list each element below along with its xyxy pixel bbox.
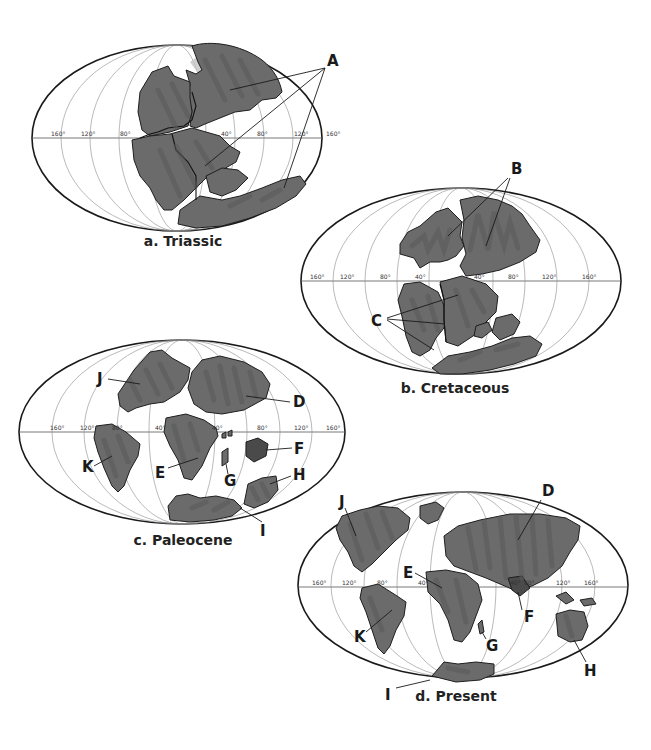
label-I: I: [260, 522, 266, 540]
label-H: H: [293, 466, 306, 484]
lon-label: 120°: [556, 579, 570, 586]
lon-label: 80°: [524, 579, 535, 586]
caption-triassic: a. Triassic: [144, 233, 223, 249]
lon-label: 120°: [294, 424, 308, 431]
lon-label: 80°: [120, 130, 131, 137]
lon-label: 120°: [340, 273, 354, 280]
lon-label: 80°: [377, 579, 388, 586]
caption-paleocene: c. Paleocene: [134, 532, 233, 548]
lon-label: 40°: [510, 579, 521, 586]
lon-label: 160°: [50, 424, 64, 431]
label-I: I: [385, 686, 391, 704]
lon-label: 120°: [80, 424, 94, 431]
label-J: J: [338, 493, 345, 511]
label-C: C: [371, 312, 382, 330]
map-triassic: 160° 120° 80° 40° 80° 120° 160° A a. Tri…: [32, 43, 340, 249]
lon-label: 80°: [380, 273, 391, 280]
lon-label: 80°: [508, 273, 519, 280]
caption-cretaceous: b. Cretaceous: [401, 380, 510, 396]
label-G: G: [224, 472, 236, 490]
lon-label: 80°: [257, 130, 268, 137]
map-present: 160° 120° 80° 40° 40° 80° 120° 160° J D …: [298, 482, 628, 704]
label-F: F: [294, 440, 304, 458]
lon-label: 160°: [584, 579, 598, 586]
lon-label: 120°: [81, 130, 95, 137]
lon-label: 160°: [312, 579, 326, 586]
lon-label: 160°: [310, 273, 324, 280]
label-E: E: [403, 564, 413, 582]
lon-label: 40°: [155, 424, 166, 431]
map-paleocene: 160° 120° 80° 40° 40° 80° 120° 160° J D …: [19, 340, 345, 548]
label-E: E: [155, 464, 165, 482]
map-cretaceous: 160° 120° 80° 40° 40° 80° 120° 160° B C …: [301, 160, 621, 396]
lon-label: 40°: [474, 273, 485, 280]
label-J: J: [96, 370, 103, 388]
lon-label: 160°: [326, 130, 340, 137]
lon-label: 120°: [294, 130, 308, 137]
label-F: F: [524, 608, 534, 626]
label-D: D: [542, 482, 554, 500]
label-D: D: [293, 393, 305, 411]
lon-label: 160°: [582, 273, 596, 280]
lon-label: 160°: [326, 424, 340, 431]
lon-label: 80°: [112, 424, 123, 431]
leader-I: [396, 680, 430, 688]
lon-label: 80°: [257, 424, 268, 431]
label-A: A: [327, 52, 339, 70]
label-K: K: [82, 458, 95, 476]
continental-drift-figure: 160° 120° 80° 40° 80° 120° 160° A a. Tri…: [0, 0, 651, 750]
lon-label: 40°: [415, 273, 426, 280]
lon-label: 160°: [51, 130, 65, 137]
lon-label: 120°: [542, 273, 556, 280]
lon-label: 40°: [212, 424, 223, 431]
label-G: G: [486, 637, 498, 655]
lon-label: 40°: [221, 130, 232, 137]
label-B: B: [511, 160, 522, 178]
label-H: H: [584, 662, 597, 680]
label-K: K: [354, 628, 367, 646]
lon-label: 120°: [342, 579, 356, 586]
caption-present: d. Present: [415, 688, 497, 704]
